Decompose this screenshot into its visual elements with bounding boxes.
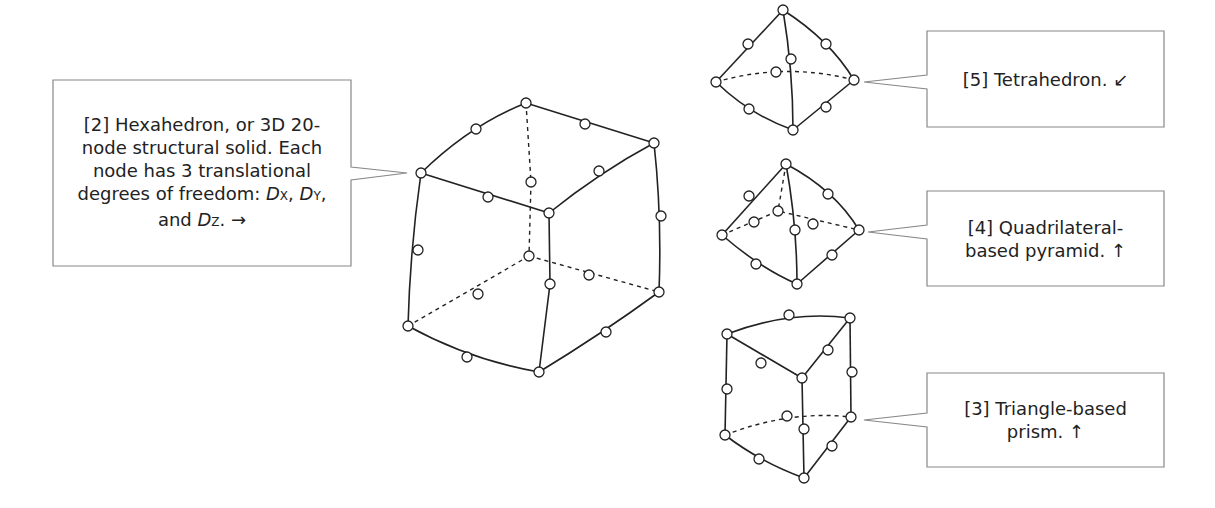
prism-callout-text: [3] Triangle-based prism. ↑: [927, 373, 1164, 467]
prism-shape: [725, 316, 851, 478]
pyramid-callout-text: [4] Quadrilateral- based pyramid. ↑: [927, 191, 1164, 286]
prism-line-2: prism. ↑: [1007, 420, 1084, 443]
pyramid-shape: [722, 164, 859, 284]
dof-dx: D: [266, 183, 280, 204]
hexahedron-line-4: degrees of freedom: DX, DY,: [77, 182, 326, 208]
tetrahedron-callout-text: [5] Tetrahedron. ↙: [927, 31, 1164, 127]
hexahedron-line-2: node structural solid. Each: [82, 136, 322, 159]
wireframes: [408, 10, 859, 478]
hexahedron-shape: [408, 103, 660, 372]
tetrahedron-label: [5] Tetrahedron. ↙: [963, 68, 1129, 91]
dof-dy: D: [300, 183, 314, 204]
pyramid-line-1: [4] Quadrilateral-: [968, 216, 1124, 239]
pyramid-line-2: based pyramid. ↑: [965, 239, 1126, 262]
tetrahedron-shape: [716, 10, 854, 130]
right-arrow-icon: →: [231, 209, 246, 230]
nodes: [403, 5, 864, 483]
hexahedron-callout-text: [2] Hexahedron, or 3D 20- node structura…: [53, 80, 351, 266]
hexahedron-line-3: node has 3 translational: [93, 159, 311, 182]
hexahedron-nodes: [403, 98, 666, 377]
dof-dz: D: [197, 209, 211, 230]
prism-line-1: [3] Triangle-based: [964, 397, 1127, 420]
pyramid-nodes: [717, 159, 864, 289]
hexahedron-line-1: [2] Hexahedron, or 3D 20-: [84, 113, 321, 136]
hexahedron-line-5: and DZ. →: [158, 208, 246, 234]
